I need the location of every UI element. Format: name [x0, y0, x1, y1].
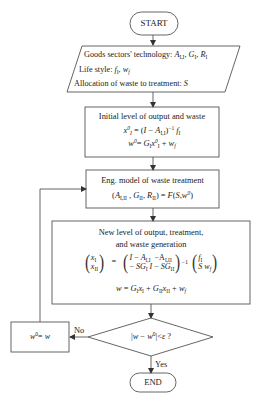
new-level-eq-waste: w = GIxI + GIIxII + wf: [52, 284, 250, 294]
inputs-line-technology: Goods sectors' technology: AI,I, GI, RI: [84, 50, 207, 60]
decision-no-label: No: [74, 326, 84, 336]
engineering-eq: (AI,II , GII, RII) = F(S,w0): [86, 191, 219, 201]
initial-box-title: Initial level of output and waste: [85, 112, 219, 122]
update-box-label: w0= w: [11, 332, 69, 342]
decision-yes-label: Yes: [155, 360, 167, 370]
end-terminal: END: [130, 377, 176, 387]
new-level-title-1: New level of output, treatment,: [52, 228, 250, 238]
new-level-matrix-eq: ( xIxII ) = ( I − AI,I −AI,II− SGI I − S…: [55, 252, 247, 278]
decision-condition: |w − w0|<ε ?: [100, 332, 202, 342]
initial-eq-waste: w0= GIx0I + wf: [85, 139, 219, 149]
start-label: START: [140, 18, 167, 28]
start-terminal: START: [130, 18, 178, 28]
inputs-line-lifestyle: Life style: fI, wf: [79, 65, 130, 75]
end-label: END: [144, 377, 162, 387]
new-level-title-2: and waste generation: [52, 240, 250, 250]
initial-eq-output: x0I = (I − AI,I)−1 fI: [85, 126, 219, 136]
engineering-box-title: Eng. model of waste treatment: [86, 176, 219, 186]
inputs-line-allocation: Allocation of waste to treatment: S: [74, 79, 188, 89]
